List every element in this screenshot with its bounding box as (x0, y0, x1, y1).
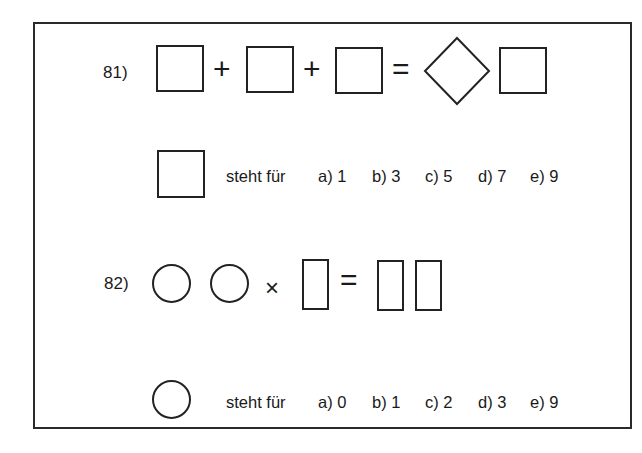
prompt-text: steht für (226, 393, 286, 412)
option-d[interactable]: d) 7 (478, 167, 506, 186)
option-b[interactable]: b) 3 (372, 167, 400, 186)
square-symbol (156, 45, 204, 92)
question-82-number: 82) (104, 274, 129, 294)
option-e[interactable]: e) 9 (530, 167, 558, 186)
option-c[interactable]: c) 5 (425, 167, 453, 186)
prompt-text: steht für (226, 167, 286, 186)
square-symbol (499, 47, 547, 94)
circle-symbol (210, 264, 249, 303)
square-symbol (335, 47, 383, 94)
rectangle-symbol (415, 260, 442, 311)
equals-operator: = (392, 54, 410, 84)
option-a[interactable]: a) 0 (318, 393, 346, 412)
question-81-number: 81) (103, 63, 128, 83)
option-c[interactable]: c) 2 (425, 393, 453, 412)
square-symbol (246, 46, 294, 93)
plus-operator: + (213, 54, 231, 84)
rectangle-symbol (377, 260, 404, 311)
option-a[interactable]: a) 1 (318, 167, 346, 186)
times-operator: × (265, 276, 279, 300)
square-symbol (157, 150, 205, 198)
circle-symbol (152, 264, 191, 303)
option-b[interactable]: b) 1 (372, 393, 400, 412)
circle-symbol (152, 380, 191, 419)
diamond-symbol (423, 36, 491, 106)
equals-operator: = (340, 265, 358, 295)
plus-operator: + (303, 54, 321, 84)
option-e[interactable]: e) 9 (530, 393, 558, 412)
rectangle-symbol (302, 259, 329, 310)
option-d[interactable]: d) 3 (478, 393, 506, 412)
